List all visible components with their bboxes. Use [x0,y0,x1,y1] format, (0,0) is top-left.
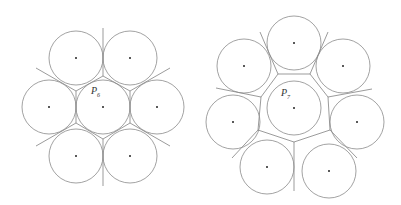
neighbor-center-left-2 [156,106,158,108]
voronoi-edge-left-4 [36,123,76,146]
neighbor-center-right-5 [232,121,234,123]
label-p7-sub: 7 [287,94,290,100]
voronoi-edge-left-1 [130,68,170,91]
neighbor-center-right-4 [266,166,268,168]
voronoi-edge-left-5 [36,68,76,91]
neighbor-center-right-6 [243,65,245,67]
center-point-right [293,107,295,109]
neighbor-center-left-0 [75,57,77,59]
neighbor-center-right-1 [342,65,344,67]
neighbor-center-left-5 [48,106,50,108]
label-p6: P6 [91,85,100,98]
neighbor-center-left-3 [129,155,131,157]
neighbor-center-left-4 [75,155,77,157]
circle-packing-diagram [0,0,401,205]
neighbor-center-right-2 [356,121,358,123]
voronoi-edge-right-5 [232,130,258,158]
neighbor-center-right-3 [328,170,330,172]
center-point-left [102,106,104,108]
voronoi-edge-right-3 [330,130,357,158]
neighbor-center-right-0 [293,42,295,44]
label-p7: P7 [281,87,290,100]
diagram-canvas: P6 P7 [0,0,401,205]
label-p6-sub: 6 [97,92,100,98]
neighbor-center-left-1 [129,57,131,59]
voronoi-edge-left-2 [130,123,170,146]
